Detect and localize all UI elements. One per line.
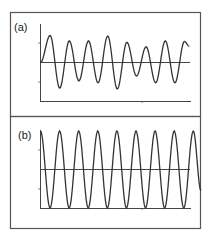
panel-a-frame bbox=[11, 13, 201, 117]
panel-b-label: (b) bbox=[18, 129, 31, 141]
panel-a: (a) bbox=[11, 13, 201, 117]
panel-a-label: (a) bbox=[14, 21, 27, 33]
panel-b: (b) bbox=[11, 117, 201, 229]
panel-b-frame bbox=[11, 117, 201, 229]
figure: (a) (b) bbox=[0, 0, 211, 237]
